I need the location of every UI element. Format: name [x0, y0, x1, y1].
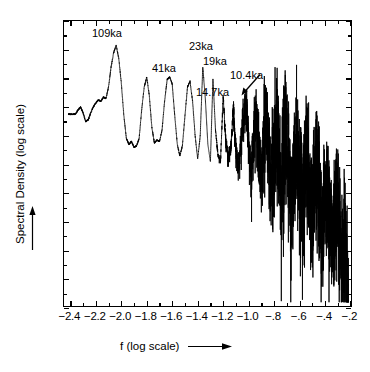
x-tick-major: [300, 301, 301, 306]
x-tick-minor: [185, 303, 186, 306]
x-tick-major: [350, 301, 351, 306]
y-tick-minor-right: [348, 179, 351, 180]
peak-annotation: 23ka: [189, 41, 213, 52]
x-tick-top: [325, 21, 326, 26]
y-tick-right: [346, 50, 351, 51]
x-axis-title-group: f (log scale): [120, 340, 290, 352]
y-axis-title: Spectral Density (log scale): [14, 84, 26, 264]
y-tick-minor: [64, 64, 67, 65]
x-tick-major: [147, 301, 148, 306]
y-tick-major: [64, 308, 69, 309]
y-tick-minor: [64, 294, 67, 295]
x-tick-top: [350, 21, 351, 26]
x-tick-minor-top: [236, 21, 237, 24]
x-tick-minor-top: [338, 21, 339, 24]
x-tick-minor: [261, 303, 262, 306]
y-tick-major: [64, 21, 69, 22]
peak-annotation: 10.4ka: [230, 70, 263, 81]
x-tick-minor: [109, 303, 110, 306]
up-arrow-icon: [27, 206, 38, 252]
x-tick-top: [300, 21, 301, 26]
x-tick-minor-top: [287, 21, 288, 24]
x-tick-minor: [210, 303, 211, 306]
x-tick-minor: [83, 303, 84, 306]
y-tick-major: [64, 222, 69, 223]
y-tick-minor-right: [348, 121, 351, 122]
y-tick-right: [346, 78, 351, 79]
x-tick-minor: [287, 303, 288, 306]
peak-annotation: 14.7ka: [196, 87, 229, 98]
x-tick-minor-top: [210, 21, 211, 24]
y-tick-minor-right: [348, 236, 351, 237]
y-tick-major: [64, 251, 69, 252]
y-tick-minor: [64, 208, 67, 209]
y-tick-right: [346, 165, 351, 166]
x-tick-label: −.2: [327, 311, 370, 323]
x-tick-minor: [236, 303, 237, 306]
x-tick-major: [198, 301, 199, 306]
x-tick-top: [147, 21, 148, 26]
y-tick-major: [64, 279, 69, 280]
right-arrow-icon: [188, 341, 232, 352]
y-tick-right: [346, 136, 351, 137]
x-tick-minor: [159, 303, 160, 306]
x-tick-major: [274, 301, 275, 306]
y-tick-major: [64, 107, 69, 108]
y-tick-minor: [64, 150, 67, 151]
y-tick-right: [346, 107, 351, 108]
x-tick-major: [70, 301, 71, 306]
x-tick-minor-top: [261, 21, 262, 24]
x-tick-minor-top: [83, 21, 84, 24]
x-tick-minor-top: [134, 21, 135, 24]
y-tick-major: [64, 165, 69, 166]
y-tick-minor-right: [348, 64, 351, 65]
x-axis-title: f (log scale): [120, 340, 179, 352]
y-tick-right: [346, 193, 351, 194]
x-tick-top: [172, 21, 173, 26]
x-tick-minor-top: [185, 21, 186, 24]
y-tick-major: [64, 78, 69, 79]
peak-annotation: 41ka: [152, 63, 176, 74]
x-tick-minor: [312, 303, 313, 306]
y-tick-minor: [64, 121, 67, 122]
x-tick-top: [121, 21, 122, 26]
y-tick-minor-right: [348, 208, 351, 209]
y-tick-minor: [64, 236, 67, 237]
y-tick-right: [346, 222, 351, 223]
y-tick-minor-right: [348, 294, 351, 295]
x-tick-top: [274, 21, 275, 26]
y-tick-minor: [64, 265, 67, 266]
y-tick-right: [346, 251, 351, 252]
y-tick-minor-right: [348, 35, 351, 36]
y-tick-minor-right: [348, 93, 351, 94]
x-tick-minor-top: [312, 21, 313, 24]
y-tick-right: [346, 279, 351, 280]
y-tick-major: [64, 50, 69, 51]
y-tick-right: [346, 308, 351, 309]
y-tick-major: [64, 193, 69, 194]
peak-annotation: 109ka: [92, 28, 122, 39]
y-tick-minor-right: [348, 150, 351, 151]
peak-annotation: 19ka: [203, 56, 227, 67]
y-tick-minor: [64, 179, 67, 180]
spectrum-path: [68, 45, 348, 302]
x-tick-major: [325, 301, 326, 306]
x-tick-top: [96, 21, 97, 26]
figure: Spectral Density (log scale) f (log scal…: [0, 0, 370, 372]
x-tick-top: [70, 21, 71, 26]
x-tick-major: [96, 301, 97, 306]
x-tick-minor-top: [109, 21, 110, 24]
x-tick-major: [249, 301, 250, 306]
y-axis-title-group: Spectral Density (log scale): [0, 90, 22, 270]
x-tick-major: [223, 301, 224, 306]
y-tick-major: [64, 136, 69, 137]
x-tick-top: [223, 21, 224, 26]
y-tick-minor: [64, 35, 67, 36]
x-tick-top: [249, 21, 250, 26]
x-tick-minor-top: [159, 21, 160, 24]
x-tick-major: [172, 301, 173, 306]
x-tick-top: [198, 21, 199, 26]
y-tick-minor: [64, 93, 67, 94]
x-tick-major: [121, 301, 122, 306]
y-tick-minor-right: [348, 265, 351, 266]
